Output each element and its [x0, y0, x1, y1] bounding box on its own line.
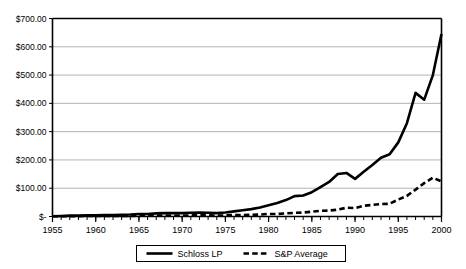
x-axis-label: 1995 — [388, 225, 408, 235]
x-axis-label: 1985 — [302, 225, 322, 235]
x-axis-label: 1980 — [259, 225, 279, 235]
legend-label: Schloss LP — [178, 249, 223, 259]
y-axis-label: $600.00 — [16, 42, 47, 52]
x-axis-label: 1990 — [345, 225, 365, 235]
y-axis-label: $200.00 — [16, 155, 47, 165]
y-axis-label: $- — [39, 212, 47, 222]
x-axis-label: 1965 — [129, 225, 149, 235]
y-axis-label: $500.00 — [16, 70, 47, 80]
y-axis-label: $700.00 — [16, 14, 47, 24]
y-axis-label: $400.00 — [16, 98, 47, 108]
x-axis-label: 1970 — [172, 225, 192, 235]
y-axis-label: $100.00 — [16, 183, 47, 193]
legend-label: S&P Average — [275, 249, 328, 259]
growth-line-chart: $-$100.00$200.00$300.00$400.00$500.00$60… — [0, 0, 466, 269]
x-axis-label: 1955 — [42, 225, 62, 235]
chart-legend: Schloss LPS&P Average — [137, 246, 346, 262]
x-axis-label: 1975 — [215, 225, 235, 235]
y-axis-label: $300.00 — [16, 127, 47, 137]
chart-container: $-$100.00$200.00$300.00$400.00$500.00$60… — [0, 0, 466, 269]
x-axis-label: 1960 — [86, 225, 106, 235]
x-axis-label: 2000 — [431, 225, 451, 235]
